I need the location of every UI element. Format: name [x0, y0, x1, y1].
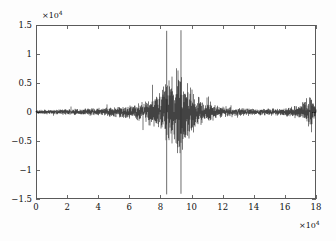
x-tick-label: 2	[64, 202, 69, 212]
x-tick-label: 0	[33, 202, 38, 212]
svg-text:×104: ×104	[299, 220, 320, 230]
x-tick-label: 12	[217, 202, 228, 212]
x-tick-label: 10	[186, 202, 197, 212]
x-tick-label: 8	[158, 202, 163, 212]
y-tick-label: −0.5	[11, 136, 32, 146]
y-tick-labels: −1.5−1−0.500.511.5	[11, 20, 32, 204]
x-tick-label: 6	[127, 202, 132, 212]
y-tick-label: −1.5	[11, 194, 32, 204]
y-tick-label: −1	[19, 165, 32, 175]
x-tick-labels: 024681012141618	[33, 202, 321, 212]
x-axis-exponent-label: ×104	[299, 220, 320, 230]
x-tick-label: 16	[279, 202, 290, 212]
chart-canvas: 024681012141618 −1.5−1−0.500.511.5 ×104 …	[0, 0, 336, 241]
y-tick-label: 1.5	[18, 20, 32, 30]
y-tick-label: 0	[27, 107, 32, 117]
svg-text:×104: ×104	[42, 10, 63, 20]
x-tick-label: 4	[96, 202, 101, 212]
y-axis-exponent-label: ×104	[42, 10, 63, 20]
x-tick-label: 14	[248, 202, 259, 212]
chart-figure: 024681012141618 −1.5−1−0.500.511.5 ×104 …	[0, 0, 336, 241]
x-tick-label: 18	[311, 202, 322, 212]
y-tick-label: 1	[27, 49, 32, 59]
y-tick-label: 0.5	[18, 78, 32, 88]
